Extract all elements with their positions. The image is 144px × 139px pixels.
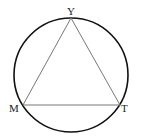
- circle: [14, 18, 128, 132]
- label-Y: Y: [67, 5, 75, 17]
- label-T: T: [121, 102, 128, 114]
- label-M: M: [9, 102, 19, 114]
- triangle-YMT: [23, 18, 120, 105]
- diagram-canvas: Y M T: [0, 0, 144, 139]
